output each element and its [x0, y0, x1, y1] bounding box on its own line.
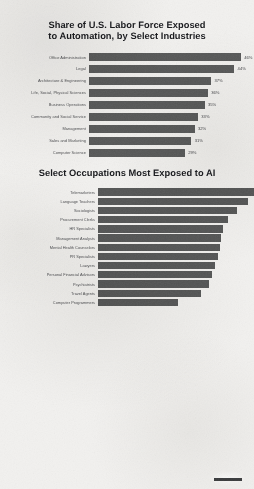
bar-row: Computer Science 29% [0, 149, 254, 157]
bar-category-label: Procurement Clerks [0, 217, 98, 222]
bar [98, 244, 220, 251]
bar [98, 299, 177, 306]
infographic-page: Share of U.S. Labor Force Exposed to Aut… [0, 0, 254, 489]
bar-value-label: 46% [241, 55, 253, 60]
bar-track [98, 271, 254, 278]
bar [98, 262, 215, 269]
bar-value-label: 31% [191, 138, 203, 143]
chart-1-bar-rows: Office Administration 46% Legal 44% Arch… [0, 53, 254, 157]
bar-category-label: Computer Science [0, 150, 89, 155]
bar-category-label: Management Analysts [0, 235, 98, 240]
bar-category-label: Computer Programmers [0, 300, 98, 305]
bar-row: Office Administration 46% [0, 53, 254, 61]
bar-track [98, 299, 254, 306]
bar-row: Business Operations 35% [0, 101, 254, 109]
bar [98, 216, 227, 223]
bar-row: Sociologists [0, 207, 254, 214]
bar-value-label: 44% [234, 66, 246, 71]
bar-track [98, 216, 254, 223]
bar-category-label: Community and Social Service [0, 114, 89, 119]
bar [98, 207, 237, 214]
bar-category-label: HR Specialists [0, 226, 98, 231]
bar-row: Travel Agents [0, 290, 254, 297]
bar-row: Personal Financial Advisors [0, 271, 254, 278]
chart-1-title-line-1: Share of U.S. Labor Force Exposed [48, 20, 205, 30]
bar [89, 137, 191, 145]
bar [89, 101, 204, 109]
bar-row: Procurement Clerks [0, 216, 254, 223]
bar-track [98, 280, 254, 287]
bar-category-label: Personal Financial Advisors [0, 272, 98, 277]
bar-track [98, 253, 254, 260]
bar-category-label: Travel Agents [0, 291, 98, 296]
bar-row: Sales and Marketing 31% [0, 137, 254, 145]
bar-row: Computer Programmers [0, 299, 254, 306]
bar [89, 113, 198, 121]
bar-track [98, 198, 254, 205]
bar-row: Architecture & Engineering 37% [0, 77, 254, 85]
bar-value-label: 33% [198, 114, 210, 119]
bar-category-label: PR Specialists [0, 254, 98, 259]
chart-automation-by-industry: Share of U.S. Labor Force Exposed to Aut… [0, 0, 254, 157]
bar-track: 29% [89, 149, 254, 157]
bar-category-label: Lawyers [0, 263, 98, 268]
bar [98, 290, 201, 297]
bar-category-label: Psychiatrists [0, 281, 98, 286]
bar-row: Legal 44% [0, 65, 254, 73]
bar-track [98, 244, 254, 251]
chart-1-title-line-2: to Automation, by Select Industries [48, 31, 205, 41]
chart-2-title: Select Occupations Most Exposed to AI [0, 168, 254, 179]
bar [98, 225, 223, 232]
bar-category-label: Management [0, 126, 89, 131]
bar-track: 46% [89, 53, 254, 61]
bar-category-label: Legal [0, 66, 89, 71]
bar-row: Life, Social, Physical Sciences 36% [0, 89, 254, 97]
bar-row: Telemarketers [0, 188, 254, 195]
bar-category-label: Sales and Marketing [0, 138, 89, 143]
bar-row: Lawyers [0, 262, 254, 269]
bar-track [98, 207, 254, 214]
bar-track [98, 225, 254, 232]
bar-value-label: 32% [195, 126, 207, 131]
bar-track: 33% [89, 113, 254, 121]
bar-row: Community and Social Service 33% [0, 113, 254, 121]
bar [98, 271, 212, 278]
bar [89, 65, 234, 73]
bar [89, 125, 194, 133]
bar [98, 198, 248, 205]
bar-row: Language Teachers [0, 198, 254, 205]
bar-track [98, 262, 254, 269]
bar-track: 36% [89, 89, 254, 97]
bar-track: 44% [89, 65, 254, 73]
chart-1-title: Share of U.S. Labor Force Exposed to Aut… [0, 20, 254, 43]
bar-category-label: Language Teachers [0, 199, 98, 204]
bar-value-label: 29% [185, 150, 197, 155]
bar [98, 253, 218, 260]
bar-category-label: Office Administration [0, 54, 89, 59]
bar [89, 53, 241, 61]
bar-category-label: Telemarketers [0, 190, 98, 195]
bar-track: 37% [89, 77, 254, 85]
bar [98, 280, 209, 287]
bar [98, 234, 221, 241]
bar [89, 149, 185, 157]
bar-category-label: Business Operations [0, 102, 89, 107]
bar-category-label: Sociologists [0, 208, 98, 213]
bar-row: Mental Health Counselors [0, 244, 254, 251]
bar-value-label: 36% [208, 90, 220, 95]
bar-value-label: 35% [205, 102, 217, 107]
bar-track: 31% [89, 137, 254, 145]
bar-row: PR Specialists [0, 253, 254, 260]
bar [98, 188, 254, 195]
bar-category-label: Architecture & Engineering [0, 78, 89, 83]
bar-category-label: Mental Health Counselors [0, 245, 98, 250]
bar-track [98, 234, 254, 241]
bar-category-label: Life, Social, Physical Sciences [0, 90, 89, 95]
bar-row: Psychiatrists [0, 280, 254, 287]
bar-row: HR Specialists [0, 225, 254, 232]
bar-track: 32% [89, 125, 254, 133]
bar-row: Management 32% [0, 125, 254, 133]
chart-2-bar-rows: Telemarketers Language Teachers Sociolog… [0, 188, 254, 306]
bar [89, 77, 211, 85]
bar-track [98, 188, 254, 195]
